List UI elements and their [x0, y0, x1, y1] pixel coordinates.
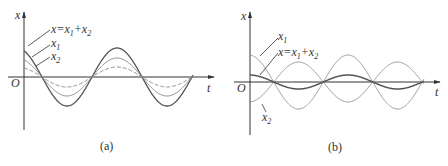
label-x1-b: x1 [277, 29, 287, 45]
leader-x2-a [36, 57, 50, 66]
leader-x1-a [32, 45, 50, 57]
caption-a: (a) [100, 139, 113, 153]
x-axis-label-a: t [207, 81, 211, 95]
leader-sum-a [28, 30, 50, 46]
caption-b: (b) [328, 140, 342, 154]
leader-x1-b [260, 38, 278, 56]
origin-label-a: O [11, 76, 20, 90]
origin-label-b: O [237, 81, 246, 95]
panel-b: x1 x=x1+x2 x2 x t O (b) [234, 9, 440, 154]
label-x2-b: x2 [261, 110, 271, 126]
y-axis-label-b: x [240, 9, 247, 23]
label-sum-b: x=x1+x2 [277, 45, 318, 61]
y-axis-label-a: x [14, 8, 21, 22]
x-axis-label-b: t [435, 85, 439, 99]
figure-canvas: x=x1+x2 x1 x2 x t O (a) x1 x=x1+x2 x2 x … [0, 0, 448, 166]
panel-a: x=x1+x2 x1 x2 x t O (a) [8, 8, 214, 153]
